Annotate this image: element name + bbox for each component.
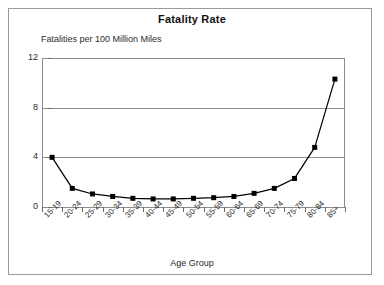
data-point-marker <box>211 195 216 200</box>
data-point-marker <box>70 186 75 191</box>
data-series-layer <box>0 0 384 285</box>
data-point-marker <box>151 196 156 201</box>
data-point-marker <box>332 77 337 82</box>
data-point-marker <box>252 191 257 196</box>
chart-figure: Fatality Rate Fatalities per 100 Million… <box>0 0 384 285</box>
series-line <box>52 79 335 199</box>
data-point-marker <box>171 196 176 201</box>
x-axis-title: Age Group <box>0 258 384 268</box>
data-point-marker <box>110 194 115 199</box>
data-point-marker <box>191 196 196 201</box>
data-point-marker <box>50 155 55 160</box>
data-point-marker <box>272 186 277 191</box>
data-point-marker <box>130 196 135 201</box>
data-point-marker <box>292 176 297 181</box>
data-point-marker <box>312 145 317 150</box>
data-point-marker <box>90 191 95 196</box>
data-point-marker <box>231 194 236 199</box>
